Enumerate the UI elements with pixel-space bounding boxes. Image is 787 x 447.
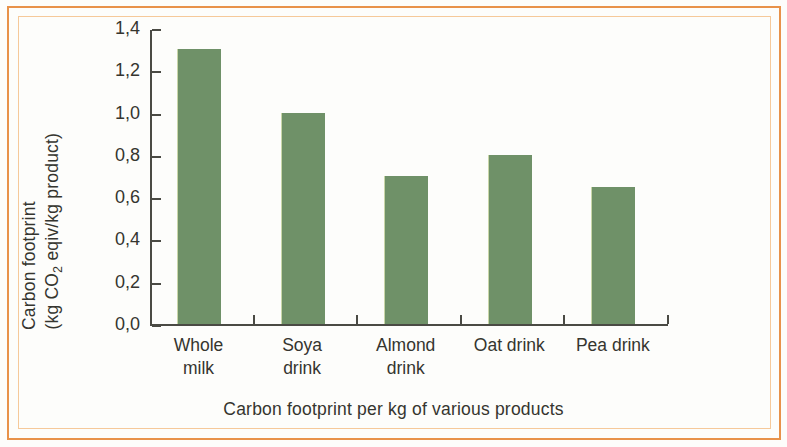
y-axis-tick: 0,8	[152, 156, 161, 158]
bar	[281, 113, 325, 324]
bar	[591, 187, 635, 324]
y-axis-tick: 0,2	[152, 283, 161, 285]
y-axis-tick: 0,6	[152, 198, 161, 200]
x-axis-category-label: Soyadrink	[250, 334, 354, 380]
y-axis-tick: 0,0	[152, 325, 161, 327]
bar	[177, 49, 221, 324]
y-axis-tick-label: 0,6	[115, 187, 140, 208]
x-axis-line	[150, 324, 668, 326]
y-axis-tick-label: 1,4	[115, 18, 140, 39]
y-axis-tick-label: 1,0	[115, 103, 140, 124]
bar	[488, 155, 532, 324]
y-axis-tick-label: 0,8	[115, 145, 140, 166]
x-axis-category-labels: WholemilkSoyadrinkAlmonddrinkOat drinkPe…	[150, 334, 668, 392]
bar-chart-figure: Carbon footprint (kg CO2 eqiv/kg product…	[0, 0, 787, 447]
y-axis-tick-label: 0,0	[115, 314, 140, 335]
x-axis-category-label-line: drink	[354, 357, 458, 380]
figure-page: Carbon footprint (kg CO2 eqiv/kg product…	[0, 0, 787, 447]
x-axis-tick	[253, 315, 255, 324]
plot-area: 0,00,20,40,60,81,01,21,4	[150, 30, 668, 326]
y-axis-title-units-prefix: (kg CO	[42, 273, 62, 330]
bar	[384, 176, 428, 324]
y-axis-tick: 0,4	[152, 240, 161, 242]
x-axis-tick	[460, 315, 462, 324]
x-axis-category-label-line: Soya	[250, 334, 354, 357]
x-axis-category-label-line: Pea drink	[561, 334, 665, 357]
y-axis-line	[150, 30, 152, 326]
y-axis-title: Carbon footprint (kg CO2 eqiv/kg product…	[18, 30, 74, 330]
x-axis-category-label: Oat drink	[458, 334, 562, 357]
y-axis-tick: 1,0	[152, 114, 161, 116]
x-axis-category-label: Almonddrink	[354, 334, 458, 380]
figure-caption: Carbon footprint per kg of various produ…	[0, 399, 787, 420]
y-axis-tick-label: 0,4	[115, 230, 140, 251]
y-axis-tick: 1,2	[152, 71, 161, 73]
x-axis-category-label-line: milk	[147, 357, 251, 380]
x-axis-tick	[356, 315, 358, 324]
y-axis-tick-label: 0,2	[115, 272, 140, 293]
y-axis-title-line1: Carbon footprint	[19, 201, 40, 330]
x-axis-category-label: Pea drink	[561, 334, 665, 357]
y-axis-title-units-suffix: eqiv/kg product)	[42, 133, 62, 266]
y-axis-title-line2: (kg CO2 eqiv/kg product)	[42, 133, 65, 330]
y-axis-tick: 1,4	[152, 29, 161, 31]
x-axis-tick	[563, 315, 565, 324]
x-axis-category-label-line: Whole	[147, 334, 251, 357]
x-axis-category-label-line: Almond	[354, 334, 458, 357]
x-axis-tick	[667, 315, 669, 324]
x-axis-category-label-line: Oat drink	[458, 334, 562, 357]
x-axis-category-label: Wholemilk	[147, 334, 251, 380]
x-axis-category-label-line: drink	[250, 357, 354, 380]
y-axis-tick-label: 1,2	[115, 60, 140, 81]
y-axis-title-units-subscript: 2	[51, 266, 65, 273]
